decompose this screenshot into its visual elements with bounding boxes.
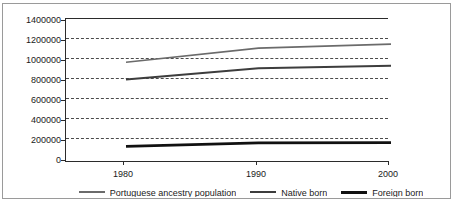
y-axis-tick-label: 200000: [3, 136, 61, 145]
x-axis-tick-label: 1980: [93, 169, 153, 179]
x-axis-line: [65, 161, 389, 162]
gridline: [66, 58, 388, 59]
legend-label: Portuguese ancestry population: [110, 188, 237, 197]
y-axis-line: [65, 18, 66, 162]
x-axis-tick: [388, 161, 389, 165]
x-axis-tick-label: 2000: [358, 169, 418, 179]
y-axis-labels: 1400000 1200000 1000000 800000 600000 40…: [3, 4, 61, 198]
y-axis-tick-label: 1400000: [3, 16, 61, 25]
legend-item-foreign-born[interactable]: Foreign born: [341, 188, 423, 197]
legend-item-native-born[interactable]: Native born: [250, 188, 327, 197]
legend-swatch-icon: [79, 191, 105, 193]
y-axis-tick-label: 1200000: [3, 36, 61, 45]
legend-label: Foreign born: [372, 188, 423, 197]
y-axis-tick-label: 800000: [3, 76, 61, 85]
legend-swatch-icon: [250, 191, 276, 193]
gridline: [66, 38, 388, 39]
plot-area: [66, 18, 388, 161]
y-axis-tick-label: 0: [3, 156, 61, 165]
y-axis-tick-label: 400000: [3, 116, 61, 125]
gridline: [66, 138, 388, 139]
legend-label: Native born: [281, 188, 327, 197]
y-axis-tick-label: 1000000: [3, 56, 61, 65]
legend-swatch-icon: [341, 191, 367, 194]
x-axis-tick: [123, 161, 124, 165]
clipped-title: [3, 0, 455, 2]
y-axis-tick-label: 600000: [3, 96, 61, 105]
gridline: [66, 118, 388, 119]
legend-item-portuguese-ancestry-population[interactable]: Portuguese ancestry population: [79, 188, 237, 197]
gridline: [66, 78, 388, 79]
gridline: [66, 18, 388, 19]
x-axis-tick-label: 1990: [226, 169, 286, 179]
x-axis-tick: [256, 161, 257, 165]
gridline: [66, 98, 388, 99]
chart-frame: 1400000 1200000 1000000 800000 600000 40…: [2, 3, 451, 199]
legend: Portuguese ancestry population Native bo…: [66, 185, 436, 199]
